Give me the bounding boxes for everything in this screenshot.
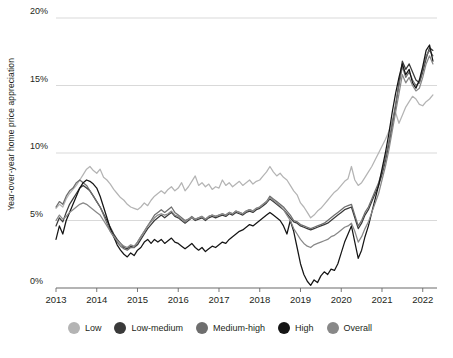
x-tick-label: 2022	[403, 294, 443, 305]
legend-item-low-medium[interactable]: Low-medium	[114, 322, 183, 334]
legend-item-low[interactable]: Low	[68, 322, 102, 334]
x-tick-label: 2014	[77, 294, 117, 305]
series-line-high	[56, 45, 433, 285]
legend-label: Medium-high	[213, 323, 265, 333]
legend-swatch-icon	[278, 322, 290, 334]
y-tick-label: 0%	[30, 276, 43, 286]
x-tick-label: 2017	[199, 294, 239, 305]
y-tick-label: 15%	[30, 74, 48, 84]
legend-swatch-icon	[196, 322, 208, 334]
y-tick-label: 20%	[30, 6, 48, 16]
x-tick-label: 2013	[36, 294, 76, 305]
x-tick-label: 2019	[280, 294, 320, 305]
x-tick-label: 2015	[117, 294, 157, 305]
legend-label: High	[295, 323, 314, 333]
legend-swatch-icon	[68, 322, 80, 334]
legend-item-medium-high[interactable]: Medium-high	[196, 322, 265, 334]
chart-legend: LowLow-mediumMedium-highHighOverall	[0, 322, 453, 334]
legend-item-high[interactable]: High	[278, 322, 314, 334]
series-line-low-medium	[56, 48, 433, 249]
legend-item-overall[interactable]: Overall	[327, 322, 373, 334]
x-tick-label: 2016	[158, 294, 198, 305]
x-tick-label: 2018	[240, 294, 280, 305]
legend-label: Low	[85, 323, 102, 333]
x-tick-label: 2021	[362, 294, 402, 305]
series-line-overall	[56, 56, 433, 248]
legend-label: Low-medium	[131, 323, 183, 333]
legend-label: Overall	[344, 323, 373, 333]
chart-container: Year-over-year home price appreciation 0…	[0, 0, 453, 358]
x-tick-label: 2020	[321, 294, 361, 305]
y-tick-label: 5%	[30, 209, 43, 219]
y-tick-label: 10%	[30, 141, 48, 151]
legend-swatch-icon	[114, 322, 126, 334]
legend-swatch-icon	[327, 322, 339, 334]
